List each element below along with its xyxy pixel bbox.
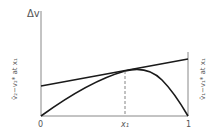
x-tick-0: 0 [38, 120, 43, 129]
delta-v-curve [41, 69, 188, 116]
left-intercept-label: v̄₂−v₂* at x₁ [11, 58, 19, 100]
tangent-line [41, 59, 188, 86]
tangent-intercept-diagram: Δv 0 x₁ 1 v̄₂−v₂* at x₁ v̄₁−v₁* at x₁ [0, 0, 214, 131]
y-axis-label: Δv [27, 8, 40, 19]
right-intercept-label: v̄₁−v₁* at x₁ [199, 58, 207, 100]
x-tick-1: 1 [186, 120, 191, 129]
x-tick-x1: x₁ [120, 120, 129, 129]
